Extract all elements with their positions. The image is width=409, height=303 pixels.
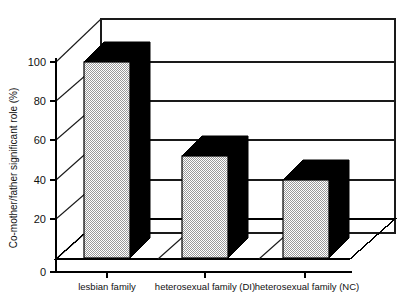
y-axis — [50, 58, 56, 272]
y-axis-title: Co-mother/father significant role (%) — [8, 88, 19, 249]
bar-1-side — [130, 42, 150, 258]
bar-group-heterosexual-nc — [283, 160, 349, 258]
bar-chart-figure: 100 80 60 40 20 0 Co-mother/father signi… — [0, 0, 409, 303]
bar-2-front — [182, 156, 228, 258]
x-axis-label-heterosexual-nc: heterosexual family (NC) — [255, 281, 360, 292]
x-axis-label-lesbian-family: lesbian family — [78, 281, 136, 292]
y-tick-label-60: 60 — [34, 134, 46, 146]
bar-group-lesbian-family — [84, 42, 150, 258]
chart-canvas: 100 80 60 40 20 0 Co-mother/father signi… — [0, 0, 409, 303]
y-tick-label-0: 0 — [40, 266, 46, 278]
y-tick-label-100: 100 — [28, 56, 46, 68]
bar-3-front — [283, 180, 329, 258]
bar-group-heterosexual-di — [182, 136, 248, 258]
y-tick-label-20: 20 — [34, 213, 46, 225]
y-tick-label-80: 80 — [34, 95, 46, 107]
bar-2-side — [228, 136, 248, 258]
y-tick-label-40: 40 — [34, 174, 46, 186]
bar-1-front — [84, 62, 130, 258]
x-axis-label-heterosexual-di: heterosexual family (DI) — [155, 281, 255, 292]
x-axis — [56, 272, 352, 278]
